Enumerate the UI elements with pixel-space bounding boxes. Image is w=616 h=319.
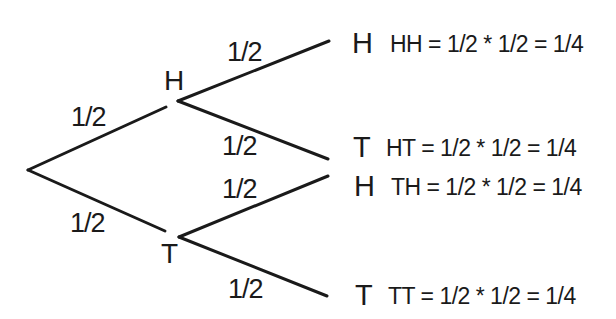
outcome-tt-leaf: T xyxy=(355,281,373,310)
node-h: H xyxy=(164,67,184,95)
node-t: T xyxy=(161,240,178,268)
outcome-ht-leaf: T xyxy=(353,133,371,162)
equation-th: TH = 1/2 * 1/2 = 1/4 xyxy=(391,176,582,199)
equation-tt: TT = 1/2 * 1/2 = 1/4 xyxy=(388,285,576,308)
outcome-th-leaf: H xyxy=(354,172,375,201)
probability-label-t-t: 1/2 xyxy=(228,276,263,303)
equation-hh: HH = 1/2 * 1/2 = 1/4 xyxy=(390,33,583,56)
probability-label-h-h: 1/2 xyxy=(227,39,262,66)
outcome-hh-leaf: H xyxy=(352,29,373,58)
probability-label-h-t: 1/2 xyxy=(222,133,257,160)
probability-label-root-h: 1/2 xyxy=(71,104,106,131)
probability-label-t-h: 1/2 xyxy=(222,176,257,203)
equation-ht: HT = 1/2 * 1/2 = 1/4 xyxy=(386,137,576,160)
probability-label-root-t: 1/2 xyxy=(70,210,105,237)
